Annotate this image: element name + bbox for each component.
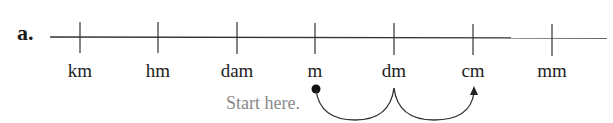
unit-label-m: m [308, 60, 323, 82]
arrowhead-icon [470, 86, 478, 95]
unit-label-hm: hm [146, 60, 170, 82]
tick-marks [80, 22, 552, 56]
jump-arc-2 [394, 88, 474, 120]
unit-label-mm: mm [537, 60, 567, 82]
unit-label-dm: dm [382, 60, 406, 82]
unit-label-dam: dam [221, 60, 254, 82]
unit-label-km: km [68, 60, 92, 82]
unit-label-cm: cm [461, 60, 484, 82]
number-line [50, 37, 607, 38]
start-here-text: Start here. [226, 93, 300, 114]
jump-arc-1 [316, 88, 394, 120]
